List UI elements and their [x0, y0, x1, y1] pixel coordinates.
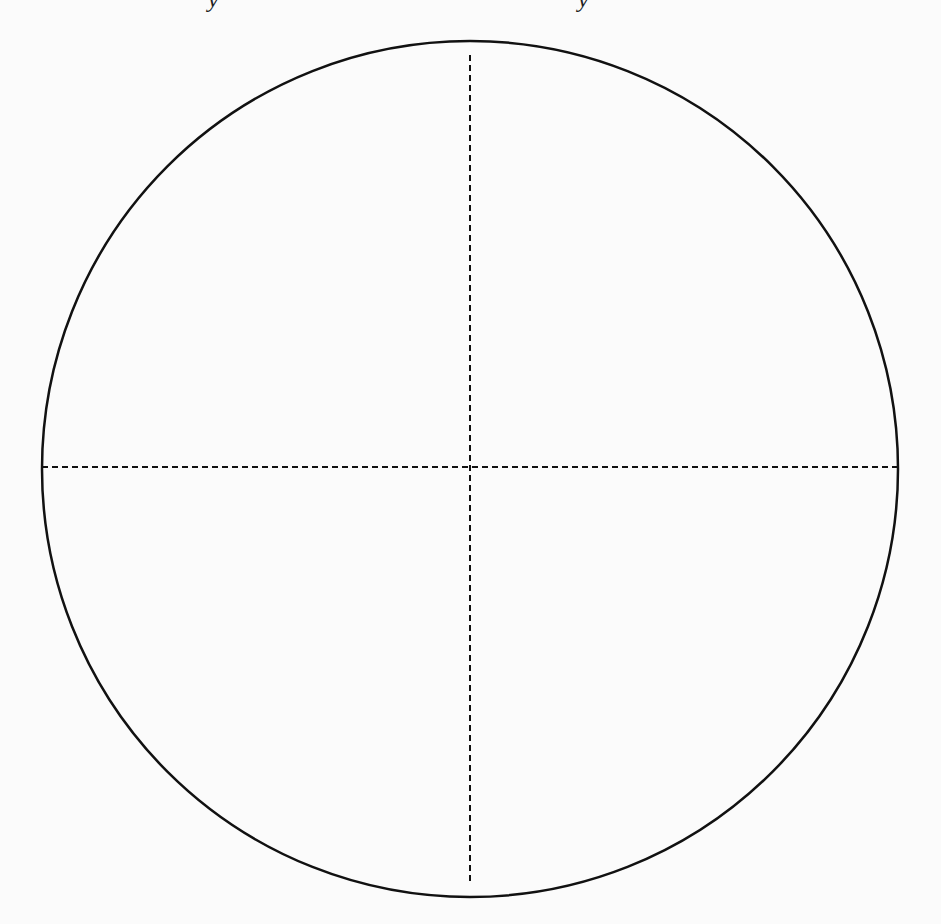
- circle-diagram: [0, 0, 941, 924]
- center-point: [469, 466, 471, 468]
- scanned-page: y y: [0, 0, 941, 924]
